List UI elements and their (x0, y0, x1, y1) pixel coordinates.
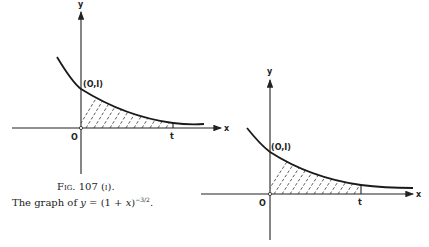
y-axis-label: y (267, 67, 273, 76)
origin-point (79, 126, 82, 129)
curve (57, 57, 204, 124)
origin-label: O (259, 199, 266, 208)
graph-right: y x O (O,I) t (201, 67, 422, 240)
figure-caption: The graph of y = (1 + x)−3/2. (12, 196, 153, 208)
y-axis-label: y (78, 0, 84, 9)
x-axis-label: x (416, 190, 422, 199)
t-label: t (170, 132, 174, 141)
graph-left: y x O (O,I) t (12, 0, 230, 174)
figure-canvas: y x O (O,I) t y x O (O,I) t (0, 0, 429, 247)
point-label: (O,I) (83, 80, 103, 89)
t-label: t (358, 198, 362, 207)
point-label: (O,I) (271, 143, 291, 152)
x-axis-label: x (224, 124, 230, 133)
origin-point (268, 192, 271, 195)
curve (247, 128, 413, 188)
origin-label: O (71, 133, 78, 142)
figure-number: Fig. 107 (i). (57, 181, 115, 192)
